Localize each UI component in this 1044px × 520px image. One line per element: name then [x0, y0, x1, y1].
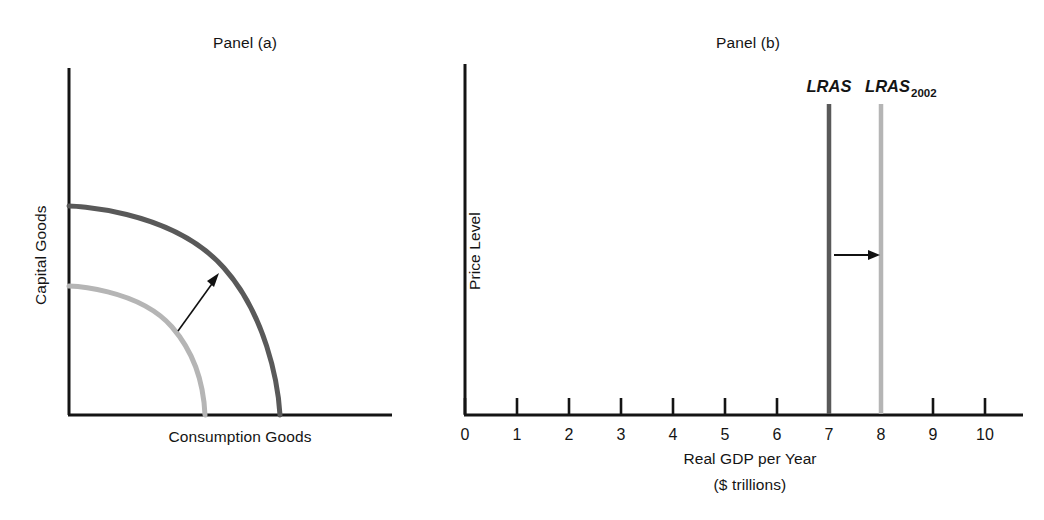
panel-a: Panel (a) Capital Goods Consumption Good… — [0, 0, 440, 520]
x-tick-label-6: 6 — [773, 426, 782, 443]
panel-b-plot: 0 1 2 3 4 5 6 7 8 9 10 LRAS — [440, 0, 1044, 520]
x-tick-label-0: 0 — [461, 426, 470, 443]
panel-a-x-axis-label: Consumption Goods — [80, 428, 400, 446]
x-tick-label-1: 1 — [513, 426, 522, 443]
lras-label: LRAS — [807, 77, 852, 95]
panel-b-x-ticks — [465, 398, 985, 414]
panel-b-x-axis-label-line1: Real GDP per Year — [570, 450, 930, 468]
panel-b: Panel (b) 0 1 — [440, 0, 1044, 520]
ppc-shifted-curve — [69, 206, 280, 415]
panel-b-x-tick-labels: 0 1 2 3 4 5 6 7 8 9 10 — [461, 426, 994, 443]
panel-b-y-axis-label: Price Level — [466, 212, 484, 290]
x-tick-label-7: 7 — [825, 426, 834, 443]
x-tick-label-9: 9 — [929, 426, 938, 443]
x-tick-label-8: 8 — [877, 426, 886, 443]
lras-2002-label-subscript: 2002 — [911, 87, 937, 99]
x-tick-label-2: 2 — [565, 426, 574, 443]
x-tick-label-10: 10 — [976, 426, 994, 443]
panel-b-shift-arrow — [834, 250, 880, 260]
panel-b-x-axis-label-line2: ($ trillions) — [570, 476, 930, 494]
lras-2002-label: LRAS 2002 — [865, 77, 937, 99]
economic-growth-figure: Panel (a) Capital Goods Consumption Good… — [0, 0, 1044, 520]
lras-2002-label-base: LRAS — [865, 77, 910, 95]
x-tick-label-4: 4 — [669, 426, 678, 443]
ppc-original-curve — [69, 286, 205, 415]
panel-a-y-axis-label: Capital Goods — [32, 205, 50, 305]
x-tick-label-3: 3 — [617, 426, 626, 443]
x-tick-label-5: 5 — [721, 426, 730, 443]
panel-a-growth-arrow — [178, 273, 219, 331]
